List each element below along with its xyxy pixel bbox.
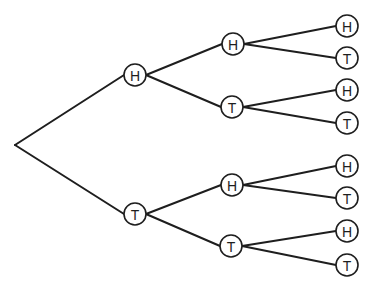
node-label: H bbox=[342, 83, 352, 99]
node-label: T bbox=[343, 51, 352, 67]
branch-line bbox=[15, 145, 124, 214]
node-label: H bbox=[130, 68, 140, 84]
tree-nodes: HTHTHTHTHTHTHT bbox=[124, 15, 358, 276]
tree-node-tails: T bbox=[221, 96, 243, 118]
node-label: H bbox=[342, 224, 352, 240]
node-label: H bbox=[228, 37, 238, 53]
branch-line bbox=[15, 75, 124, 145]
tree-edges bbox=[15, 26, 336, 265]
tree-node-tails: T bbox=[336, 47, 358, 69]
branch-line bbox=[243, 107, 336, 123]
branch-line bbox=[244, 26, 336, 44]
branch-line bbox=[146, 44, 222, 75]
node-label: T bbox=[228, 100, 237, 116]
node-label: T bbox=[343, 191, 352, 207]
node-label: T bbox=[227, 239, 236, 255]
branch-line bbox=[243, 166, 336, 185]
branch-line bbox=[146, 185, 221, 214]
tree-node-heads: H bbox=[336, 155, 358, 177]
node-label: T bbox=[131, 207, 140, 223]
branch-line bbox=[242, 231, 336, 246]
tree-node-tails: T bbox=[336, 254, 358, 276]
branch-line bbox=[243, 90, 336, 107]
branch-line bbox=[244, 44, 336, 58]
node-label: T bbox=[343, 258, 352, 274]
tree-node-tails: T bbox=[336, 112, 358, 134]
branch-line bbox=[243, 185, 336, 198]
tree-node-heads: H bbox=[124, 64, 146, 86]
branch-line bbox=[146, 75, 221, 107]
node-label: H bbox=[342, 159, 352, 175]
tree-node-tails: T bbox=[124, 203, 146, 225]
tree-node-tails: T bbox=[220, 235, 242, 257]
tree-node-heads: H bbox=[221, 174, 243, 196]
branch-line bbox=[146, 214, 220, 246]
tree-node-heads: H bbox=[336, 79, 358, 101]
branch-line bbox=[242, 246, 336, 265]
probability-tree-diagram: HTHTHTHTHTHTHT bbox=[0, 0, 369, 283]
node-label: H bbox=[342, 19, 352, 35]
tree-node-heads: H bbox=[336, 220, 358, 242]
tree-node-heads: H bbox=[222, 33, 244, 55]
node-label: T bbox=[343, 116, 352, 132]
tree-node-tails: T bbox=[336, 187, 358, 209]
node-label: H bbox=[227, 178, 237, 194]
tree-node-heads: H bbox=[336, 15, 358, 37]
